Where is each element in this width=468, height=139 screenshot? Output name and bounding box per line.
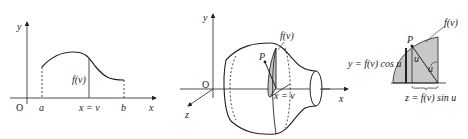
fv-label-2: f(v) [444,17,459,29]
y-axis-label-3d: y [202,12,208,23]
fv-label: f(v) [72,74,87,86]
x-axis-label: x [148,102,154,113]
solid-panel: y z O P f(v) x = v [180,12,330,134]
z-brace [412,86,438,90]
xv-label-3d: x = v [273,90,295,101]
z-axis-3d [188,89,213,106]
x-axis-label-2: x [338,93,344,104]
solid-of-revolution-diagram: y x O a b x = v f(v) y z O P f(v) x = v [0,0,468,139]
origin-label-3d: O [202,79,209,90]
point-p-label-2: P [406,34,413,45]
angle-u-label-2: u [428,63,433,74]
z-equation: z = f(v) sin u [404,92,456,104]
xv-label: x = v [78,102,100,113]
fv-label-3d: f(v) [280,30,295,42]
z-axis-label-3d: z [184,109,189,120]
point-p-label: P [258,51,265,62]
a-label: a [39,102,44,113]
angle-u-label-1: u [414,53,419,64]
origin-label: O [16,102,23,113]
curve-panel: y x O a b x = v f(v) [10,21,156,113]
y-equation: y = f(v) cos u [347,58,401,70]
right-end-ellipse [310,71,322,106]
left-hidden-section [230,56,236,120]
cross-section-panel: P f(v) u u x y = f(v) cos u z = f(v) sin… [320,17,459,104]
b-label: b [121,102,126,113]
right-hidden-section [285,48,290,128]
y-axis-label: y [16,21,22,32]
